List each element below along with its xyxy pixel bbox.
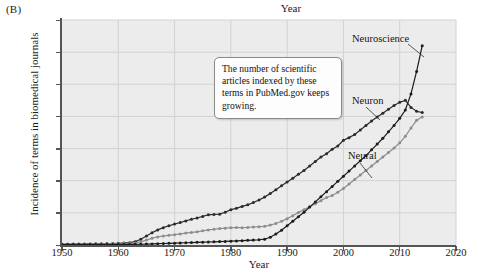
series-label-neural: Neural — [348, 150, 377, 161]
series-label-neuroscience: Neuroscience — [352, 33, 409, 44]
leader-line — [366, 107, 380, 120]
figure-panel-b: (B) Year Incidence of terms in biomedica… — [0, 0, 478, 277]
series-label-neuron: Neuron — [352, 95, 384, 106]
leader-line — [360, 163, 372, 178]
callout-box: The number of scientific articles indexe… — [214, 57, 342, 119]
leader-line — [408, 44, 424, 57]
callout-text: The number of scientific articles indexe… — [222, 63, 329, 111]
